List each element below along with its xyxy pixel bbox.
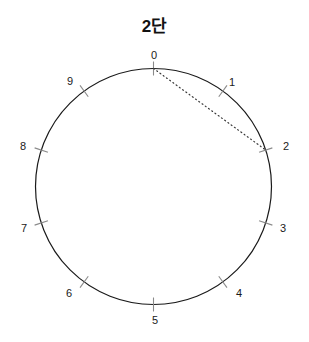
chord-layer	[154, 69, 266, 151]
node-label-5: 5	[152, 315, 158, 326]
tick-mark-6	[80, 276, 88, 287]
node-label-4: 4	[236, 288, 242, 299]
node-label-3: 3	[280, 223, 286, 234]
tick-mark-1	[219, 85, 227, 96]
node-label-6: 6	[66, 288, 72, 299]
circle-outline	[36, 69, 272, 305]
times-table-circle-figure: 2단 0123456789	[0, 0, 309, 342]
tick-mark-4	[219, 276, 227, 287]
node-label-8: 8	[20, 141, 26, 152]
node-label-0: 0	[151, 50, 157, 61]
tick-marks-layer	[35, 62, 273, 312]
node-label-7: 7	[21, 223, 27, 234]
node-label-1: 1	[229, 77, 235, 88]
node-label-2: 2	[283, 141, 289, 152]
node-label-9: 9	[67, 76, 73, 87]
chord-0-to-2	[154, 69, 266, 151]
circle-outline-layer	[36, 69, 272, 305]
tick-mark-9	[80, 85, 88, 96]
